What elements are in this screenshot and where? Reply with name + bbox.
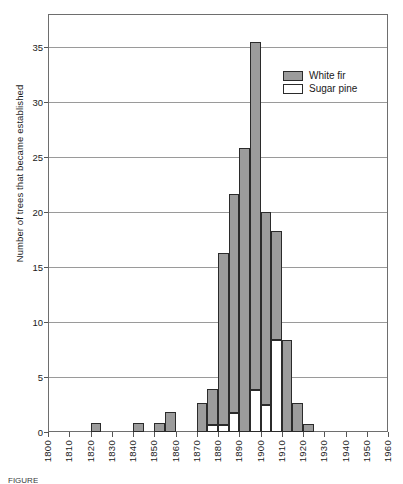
- legend-label-sugar_pine: Sugar pine: [309, 83, 357, 94]
- bar-white-fir-1875: [207, 389, 218, 425]
- x-tick-label-1870: 1870: [191, 440, 202, 462]
- y-tick-mark-5: [44, 377, 48, 378]
- y-tick-label-0: 0: [21, 427, 43, 438]
- figure-histogram: Number of trees that became established …: [0, 0, 403, 484]
- x-tick-mark-1880: [218, 432, 219, 437]
- y-tick-label-30: 30: [21, 97, 43, 108]
- x-tick-label-1810: 1810: [63, 440, 74, 462]
- x-tick-label-1950: 1950: [361, 440, 372, 462]
- y-tick-label-25: 25: [21, 152, 43, 163]
- legend-item-white_fir: White fir: [283, 70, 357, 81]
- x-tick-mark-1820: [91, 432, 92, 437]
- x-tick-label-1860: 1860: [170, 440, 181, 462]
- y-tick-label-10: 10: [21, 317, 43, 328]
- legend: White firSugar pine: [283, 70, 357, 96]
- x-tick-label-1880: 1880: [212, 440, 223, 462]
- x-tick-mark-1930: [324, 432, 325, 437]
- x-tick-mark-1950: [367, 432, 368, 437]
- x-tick-mark-1850: [154, 432, 155, 437]
- bar-white-fir-1820: [91, 423, 102, 432]
- x-tick-label-1910: 1910: [276, 440, 287, 462]
- y-axis-label: Number of trees that became established: [14, 59, 25, 289]
- x-tick-label-1840: 1840: [127, 440, 138, 462]
- x-tick-label-1800: 1800: [42, 440, 53, 462]
- bar-white-fir-1915: [292, 403, 303, 432]
- x-tick-label-1820: 1820: [85, 440, 96, 462]
- x-tick-label-1960: 1960: [382, 440, 393, 462]
- x-tick-mark-1920: [303, 432, 304, 437]
- legend-swatch-white_fir: [283, 71, 303, 81]
- x-tick-mark-1910: [282, 432, 283, 437]
- bar-white-fir-1855: [165, 412, 176, 432]
- x-tick-mark-1860: [176, 432, 177, 437]
- bar-white-fir-1880: [218, 253, 229, 426]
- bar-white-fir-1870: [197, 403, 208, 432]
- y-tick-mark-10: [44, 322, 48, 323]
- x-tick-label-1930: 1930: [318, 440, 329, 462]
- x-tick-mark-1960: [388, 432, 389, 437]
- bar-white-fir-1900: [261, 212, 272, 405]
- y-tick-label-35: 35: [21, 42, 43, 53]
- bar-white-fir-1885: [229, 194, 240, 413]
- x-tick-label-1890: 1890: [233, 440, 244, 462]
- bar-sugar-pine-1880: [218, 425, 229, 432]
- x-tick-mark-1800: [48, 432, 49, 437]
- bar-white-fir-1850: [154, 423, 165, 432]
- x-tick-label-1900: 1900: [255, 440, 266, 462]
- bar-sugar-pine-1875: [207, 425, 218, 432]
- bar-white-fir-1905: [271, 231, 282, 340]
- bar-sugar-pine-1900: [261, 405, 272, 433]
- x-tick-mark-1840: [133, 432, 134, 437]
- x-tick-mark-1830: [112, 432, 113, 437]
- x-tick-mark-1890: [239, 432, 240, 437]
- gridline-y-35: [49, 47, 387, 48]
- gridline-y-30: [49, 102, 387, 103]
- legend-item-sugar_pine: Sugar pine: [283, 83, 357, 94]
- gridline-y-25: [49, 157, 387, 158]
- bar-sugar-pine-1905: [271, 340, 282, 432]
- gridline-y-20: [49, 212, 387, 213]
- bar-white-fir-1840: [133, 423, 144, 432]
- bar-white-fir-1910: [282, 340, 293, 432]
- legend-swatch-sugar_pine: [283, 84, 303, 94]
- y-tick-mark-25: [44, 157, 48, 158]
- bar-sugar-pine-1895: [250, 390, 261, 432]
- y-tick-mark-35: [44, 47, 48, 48]
- x-tick-label-1830: 1830: [106, 440, 117, 462]
- bar-white-fir-1895: [250, 42, 261, 391]
- x-tick-mark-1870: [197, 432, 198, 437]
- y-tick-label-15: 15: [21, 262, 43, 273]
- x-tick-mark-1810: [69, 432, 70, 437]
- x-tick-mark-1940: [346, 432, 347, 437]
- legend-label-white_fir: White fir: [309, 70, 346, 81]
- bar-sugar-pine-1885: [229, 413, 240, 432]
- y-tick-mark-30: [44, 102, 48, 103]
- bar-white-fir-1890: [239, 148, 250, 432]
- x-tick-label-1940: 1940: [340, 440, 351, 462]
- bar-white-fir-1920: [303, 424, 314, 432]
- x-tick-mark-1900: [261, 432, 262, 437]
- x-tick-label-1850: 1850: [148, 440, 159, 462]
- y-tick-mark-20: [44, 212, 48, 213]
- y-tick-mark-15: [44, 267, 48, 268]
- figure-caption: FIGURE: [8, 476, 38, 484]
- y-tick-label-20: 20: [21, 207, 43, 218]
- x-tick-label-1920: 1920: [297, 440, 308, 462]
- y-tick-label-5: 5: [21, 372, 43, 383]
